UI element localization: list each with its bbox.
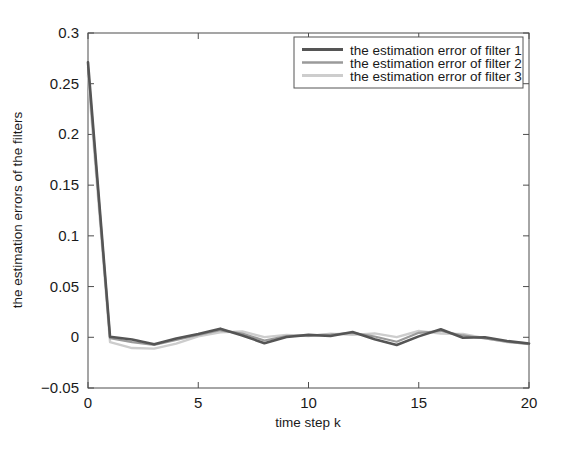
chart-legend: the estimation error of filter 1 the est… — [294, 37, 523, 88]
x-tick-label: 15 — [410, 394, 427, 411]
x-tick-label: 20 — [521, 394, 538, 411]
y-tick-label: 0.15 — [50, 176, 79, 193]
y-tick-label: 0.05 — [50, 278, 79, 295]
y-tick-label: 0.2 — [58, 125, 79, 142]
y-axis-title: the estimation errors of the filters — [10, 111, 25, 308]
x-tick-label: 10 — [300, 394, 317, 411]
y-tick-label: 0.25 — [50, 75, 79, 92]
estimation-error-line-chart: 05101520 −0.0500.050.10.150.20.250.3 tim… — [0, 0, 561, 449]
legend-label-series-3: the estimation error of filter 3 — [350, 69, 522, 84]
y-tick-label: −0.05 — [41, 379, 79, 396]
x-axis-title: time step k — [275, 415, 341, 430]
x-tick-label: 0 — [84, 394, 92, 411]
y-tick-label: 0.1 — [58, 227, 79, 244]
x-tick-label: 5 — [194, 394, 202, 411]
figure-container: 05101520 −0.0500.050.10.150.20.250.3 tim… — [0, 0, 561, 449]
y-tick-label: 0 — [71, 328, 79, 345]
y-tick-label: 0.3 — [58, 24, 79, 41]
